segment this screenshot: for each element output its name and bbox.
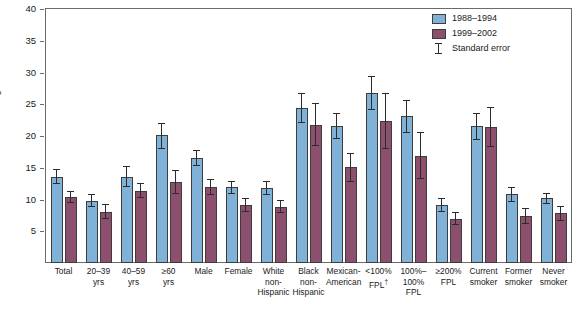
bar-group (46, 9, 81, 263)
error-cap-top (508, 187, 515, 188)
error-cap-bottom (333, 138, 340, 139)
error-cap-top (333, 113, 340, 114)
error-cap-top (172, 170, 179, 171)
error-bar (490, 107, 491, 146)
error-cap-bottom (193, 165, 200, 166)
error-bar (210, 179, 211, 196)
legend-swatch-1988-1994 (432, 14, 446, 24)
error-cap-top (228, 181, 235, 182)
error-bar (420, 132, 421, 179)
error-cap-bottom (88, 206, 95, 207)
error-cap-top (557, 206, 564, 207)
y-tick-mark (40, 200, 44, 201)
bar-group (396, 9, 431, 263)
chart-legend: 1988–1994 1999–2002 Standard error (432, 12, 510, 57)
y-tick-label: 20 (25, 130, 36, 141)
x-axis-label: <100%FPL† (361, 266, 396, 290)
error-cap-bottom (172, 193, 179, 194)
legend-item-series-2: 1999–2002 (432, 27, 510, 40)
error-cap-bottom (382, 148, 389, 149)
x-axis-labels: Total20–39yrs40–59yrs≥60yrsMaleFemaleWhi… (46, 266, 571, 322)
bar (471, 126, 483, 263)
error-bar (546, 193, 547, 204)
error-cap-bottom (557, 220, 564, 221)
bar (226, 187, 238, 263)
error-bar (175, 170, 176, 194)
error-cap-top (263, 181, 270, 182)
error-cap-top (522, 208, 529, 209)
error-cap-top (487, 107, 494, 108)
error-cap-bottom (53, 183, 60, 184)
error-bar (70, 191, 71, 204)
error-cap-top (102, 204, 109, 205)
error-bar (105, 204, 106, 219)
error-bar (161, 123, 162, 149)
error-cap-top (158, 123, 165, 124)
x-axis-label: Female (221, 266, 256, 277)
error-cap-bottom (67, 202, 74, 203)
error-cap-bottom (347, 181, 354, 182)
error-bar (56, 169, 57, 184)
bar (240, 205, 252, 263)
y-tick-mark (40, 73, 44, 74)
x-axis-label: 100%–100%FPL (396, 266, 431, 298)
error-bar (266, 181, 267, 195)
error-cap-bottom (368, 109, 375, 110)
bar-group (361, 9, 396, 263)
error-bar (301, 93, 302, 123)
bar-group (221, 9, 256, 263)
bar-group (536, 9, 571, 263)
error-cap-top (193, 150, 200, 151)
error-cap-top (452, 212, 459, 213)
y-tick-mark (40, 9, 44, 10)
error-bar (315, 103, 316, 146)
error-cap-bottom (508, 201, 515, 202)
bar (541, 198, 553, 263)
y-tick-35: 35 (0, 41, 45, 42)
error-cap-bottom (312, 145, 319, 146)
x-axis-label: Blacknon-Hispanic (291, 266, 326, 298)
error-bar (511, 187, 512, 202)
bar (401, 116, 413, 263)
bar (65, 197, 77, 263)
error-bar (525, 208, 526, 225)
y-tick-label: 35 (25, 35, 36, 46)
bar (135, 191, 147, 263)
error-bar (91, 194, 92, 207)
bar (100, 212, 112, 263)
x-axis-label: ≥200%FPL (431, 266, 466, 287)
x-axis-label: Formersmoker (501, 266, 536, 287)
x-axis-label: Total (46, 266, 81, 277)
error-cap-top (438, 198, 445, 199)
error-bar (371, 76, 372, 110)
error-bar (140, 183, 141, 198)
y-axis-title: Percentage (0, 85, 1, 133)
error-cap-top (417, 132, 424, 133)
legend-label-1988-1994: 1988–1994 (452, 13, 497, 24)
bar-group (291, 9, 326, 263)
error-cap-top (277, 200, 284, 201)
y-tick-label: 10 (25, 194, 36, 205)
y-tick-mark (40, 231, 44, 232)
legend-swatch-1999-2002 (432, 29, 446, 39)
x-axis-label: Whitenon-Hispanic (256, 266, 291, 298)
error-cap-top (207, 179, 214, 180)
y-tick-5: 5 (0, 231, 45, 232)
error-bar (455, 212, 456, 225)
error-cap-top (67, 191, 74, 192)
bar-group (186, 9, 221, 263)
legend-label-standard-error: Standard error (452, 43, 510, 54)
error-bar (350, 153, 351, 182)
x-axis-label: Mexican-American (326, 266, 361, 287)
bar (205, 187, 217, 263)
error-bar (245, 198, 246, 212)
bar (296, 108, 308, 263)
error-bar (406, 100, 407, 133)
bar (275, 207, 287, 264)
bar (436, 205, 448, 263)
y-tick-10: 10 (0, 200, 45, 201)
error-cap-bottom (228, 193, 235, 194)
error-cap-bottom (102, 218, 109, 219)
bar (121, 177, 133, 263)
error-cap-bottom (417, 178, 424, 179)
